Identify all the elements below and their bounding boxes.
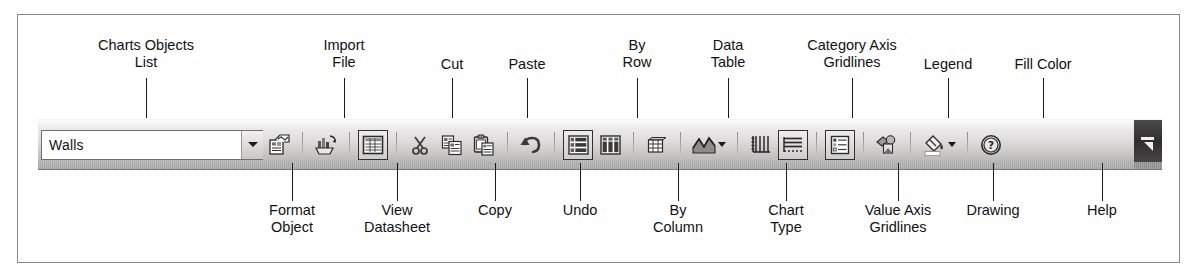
help-question-icon: ? [979,133,1003,157]
callout-label-paste: Paste [508,56,545,73]
callout-leader-view-datasheet [397,163,398,201]
callout-label-help: Help [1087,202,1117,219]
fill-color-icon [922,133,946,157]
callout-leader-import-file [344,78,345,118]
charts-objects-list-value: Walls [42,137,84,153]
callout-label-undo: Undo [563,202,598,219]
fill-color-button[interactable] [919,130,949,160]
toolbar-separator [507,132,508,158]
toolbar-options-icon [1141,137,1154,140]
callout-leader-legend [948,78,949,118]
callout-label-view-datasheet: View Datasheet [364,202,430,236]
callout-label-chart-type: Chart Type [768,202,803,236]
toolbar-separator [302,132,303,158]
undo-arrow-icon [519,134,543,156]
callout-label-fill-color: Fill Color [1014,56,1071,73]
svg-text:?: ? [988,139,994,152]
data-table-button[interactable] [642,130,672,160]
copy-button[interactable] [437,130,467,160]
callout-leader-fill-color [1043,78,1044,118]
charts-objects-list-combo[interactable]: Walls [41,130,263,160]
by-row-icon [568,135,589,155]
toolbar-separator [554,132,555,158]
drawing-icon [875,134,899,156]
charts-objects-list-dropdown-button[interactable] [241,131,263,159]
callout-label-charts-objects-list: Charts Objects List [98,37,194,71]
callout-label-by-column: By Column [653,202,703,236]
paste-icon [473,134,495,156]
callout-leader-by-column [678,163,679,201]
legend-icon [830,135,850,155]
by-row-button[interactable] [563,130,593,160]
callout-leader-copy [495,163,496,201]
callout-label-copy: Copy [478,202,512,219]
callout-label-cut: Cut [441,56,464,73]
scissors-icon [409,134,431,156]
legend-button[interactable] [825,130,855,160]
callout-leader-help [1102,163,1103,201]
value-axis-gridlines-button[interactable] [778,130,808,160]
category-axis-gridlines-icon [750,134,772,156]
callout-label-drawing: Drawing [966,202,1019,219]
chart-type-icon [692,135,716,155]
callout-leader-drawing [993,163,994,201]
callout-leader-charts-objects-list [146,78,147,118]
callout-leader-by-row [637,78,638,118]
toolbar-separator [967,132,968,158]
toolbar-separator [816,132,817,158]
callout-leader-cut [452,78,453,118]
callout-label-category-axis-gridlines: Category Axis Gridlines [807,37,896,71]
callout-leader-paste [527,78,528,118]
help-button[interactable]: ? [976,130,1006,160]
cut-button[interactable] [405,130,435,160]
toolbar-separator [349,132,350,158]
category-axis-gridlines-button[interactable] [746,130,776,160]
drawing-button[interactable] [872,130,902,160]
callout-label-data-table: Data Table [711,37,746,71]
callout-label-legend: Legend [924,56,972,73]
callout-label-by-row: By Row [622,37,651,71]
paste-button[interactable] [469,130,499,160]
callout-leader-chart-type [786,163,787,201]
toolbar-separator [910,132,911,158]
callout-leader-value-axis-gridlines [898,163,899,201]
callout-label-format-object: Format Object [269,202,315,236]
view-datasheet-icon [362,135,384,155]
import-file-icon [314,133,338,157]
callout-label-value-axis-gridlines: Value Axis Gridlines [865,202,932,236]
callout-leader-undo [580,163,581,201]
format-object-icon [267,133,291,157]
toolbar-separator [863,132,864,158]
toolbar-separator [633,132,634,158]
toolbar-separator [737,132,738,158]
callout-leader-format-object [292,163,293,201]
callout-leader-data-table [728,78,729,118]
view-datasheet-button[interactable] [358,130,388,160]
by-column-button[interactable] [595,130,625,160]
chart-type-button[interactable] [689,130,719,160]
format-object-button[interactable] [264,130,294,160]
data-table-icon [646,135,668,155]
undo-button[interactable] [516,130,546,160]
toolbar-separator [680,132,681,158]
toolbar-overflow-endcap[interactable] [1134,120,1162,169]
toolbar-options-arrow-icon [1144,142,1153,151]
toolbar-separator [396,132,397,158]
by-column-icon [600,135,621,155]
chevron-down-icon [248,142,258,147]
value-axis-gridlines-icon [782,135,804,155]
callout-label-import-file: Import File [323,37,364,71]
chart-type-dropdown-arrow-icon[interactable] [718,142,726,147]
fill-color-dropdown-arrow-icon[interactable] [948,142,956,147]
callout-leader-category-axis-gridlines [852,78,853,118]
import-file-button[interactable] [311,130,341,160]
copy-icon [441,134,463,156]
figure-canvas: Walls [0,0,1199,278]
